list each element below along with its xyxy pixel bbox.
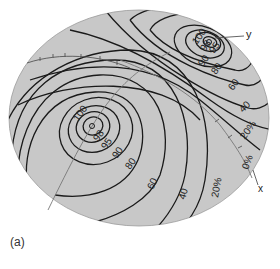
figure-caption: (a) [10, 235, 25, 249]
y-axis-label: y [246, 28, 252, 40]
contour-diagram: y x 100 98 95 90 80 60 40 20% 100 98 95 … [0, 0, 280, 269]
x-axis-label: x [258, 183, 263, 194]
